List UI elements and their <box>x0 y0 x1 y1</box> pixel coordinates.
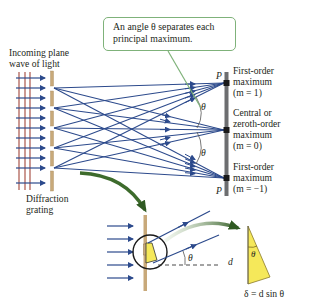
theta-lower-label: θ <box>201 147 206 158</box>
angle-callout: An angle θ separates each principal maxi… <box>103 17 236 51</box>
max-m1-line3: (m = 1) <box>233 87 262 98</box>
max-m-1-line3: (m = −1) <box>233 183 267 194</box>
theta-inset-label: θ <box>188 252 193 263</box>
d-label: d <box>228 256 233 267</box>
max-m-1-line2: maximum <box>233 172 272 183</box>
max-m1-line1: First-order <box>233 65 274 76</box>
theta-triangle-label: θ <box>251 249 255 260</box>
inset-angle-arc <box>183 251 185 265</box>
callout-line-1: An angle θ separates each <box>113 21 235 33</box>
max-m0-line4: (m = 0) <box>233 140 262 151</box>
path-difference-formula: δ = d sin θ <box>244 288 284 299</box>
inset-path-difference-triangle <box>146 243 157 263</box>
zoom-arrow-triangle <box>165 223 238 241</box>
point-p-bottom: P <box>216 185 222 196</box>
inset-diffracted-rays <box>148 211 219 263</box>
callout-pointer <box>168 51 201 108</box>
diffraction-grating <box>51 71 54 191</box>
theta-upper-label: θ <box>201 101 206 112</box>
max-m0-line3: maximum <box>233 129 272 140</box>
inset-incoming-rays <box>107 226 133 278</box>
grating-label-2: grating <box>26 204 53 215</box>
diffracted-rays <box>54 83 224 178</box>
callout-line-2: principal maximum. <box>113 33 235 45</box>
zoom-arrow-main <box>80 173 145 210</box>
incoming-label-1: Incoming plane <box>9 47 69 58</box>
wavefront-lines <box>19 72 30 190</box>
max-m0-line2: zeroth-order <box>233 118 280 129</box>
incoming-label-2: wave of light <box>9 58 60 69</box>
max-m0-line1: Central or <box>233 107 272 118</box>
max-m1-line2: maximum <box>233 76 272 87</box>
max-m-1-line1: First-order <box>233 161 274 172</box>
grating-label-1: Diffraction <box>26 193 68 204</box>
point-p-top: P <box>216 70 222 81</box>
